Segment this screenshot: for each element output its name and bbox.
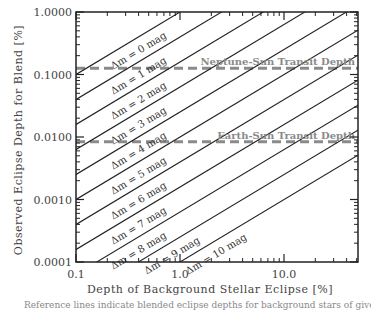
delta-m-line [45, 62, 371, 268]
reference-line-label: Earth-Sun Transit Depth [217, 130, 356, 141]
delta-m-line [45, 0, 371, 193]
y-tick-label: 0.1000 [34, 69, 73, 82]
delta-m-line [45, 12, 371, 218]
y-tick-label: 0.0001 [34, 256, 73, 269]
y-tick-label: 1.0000 [34, 6, 73, 19]
delta-m-line [45, 0, 371, 93]
blend-depth-chart: Δm = 0 magΔm = 1 magΔm = 2 magΔm = 3 mag… [0, 0, 371, 310]
x-axis-title: Depth of Background Stellar Eclipse [%] [87, 283, 333, 296]
x-tick-label: 10.0 [272, 268, 297, 281]
caption-fragment: Reference lines indicate blended eclipse… [24, 300, 371, 310]
x-tick-label: 1.0 [171, 268, 189, 281]
reference-line-label: Neptune-Sun Transit Depth [200, 56, 355, 67]
delta-m-line [45, 0, 371, 143]
y-tick-label: 0.0010 [34, 194, 73, 207]
y-tick-label: 0.0100 [34, 131, 73, 144]
y-axis-title: Observed Eclipse Depth for Blend [%] [12, 25, 25, 255]
x-tick-label: 0.1 [67, 268, 85, 281]
